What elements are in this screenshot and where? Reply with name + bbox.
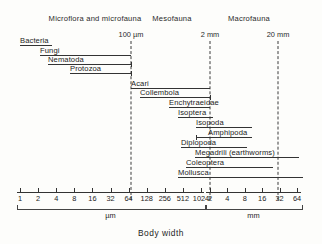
unit-label-um: µm (105, 211, 115, 220)
unit-brace-mm (206, 205, 303, 210)
axis-tick (201, 188, 202, 192)
axis-tick (210, 188, 211, 192)
axis-tick-label: 8 (72, 194, 76, 203)
axis-tick-label: 2 (208, 194, 212, 203)
axis-title: Body width (138, 228, 184, 238)
axis-tick-label: 256 (159, 194, 171, 203)
axis-tick (227, 188, 228, 192)
axis-tick-label: 4 (54, 194, 58, 203)
axis-tick (245, 188, 246, 192)
axis-tick (20, 188, 21, 192)
axis-tick (56, 188, 57, 192)
x-axis: 12481632641282565121024248163264 µm mm (0, 0, 322, 244)
axis-tick (165, 188, 166, 192)
axis-tick-label: 1024 (193, 194, 209, 203)
axis-tick (111, 188, 112, 192)
axis-tick-label: 128 (141, 194, 153, 203)
axis-tick-label: 16 (258, 194, 266, 203)
axis-tick (297, 188, 298, 192)
unit-brace-um (17, 205, 206, 210)
axis-tick (183, 188, 184, 192)
axis-tick (280, 188, 281, 192)
axis-tick (74, 188, 75, 192)
axis-tick-label: 512 (177, 194, 189, 203)
axis-tick (38, 188, 39, 192)
axis-tick-label: 2 (36, 194, 40, 203)
soil-fauna-body-width-chart: Microflora and microfauna Mesofauna Macr… (0, 0, 322, 244)
axis-tick-label: 8 (243, 194, 247, 203)
axis-tick (262, 188, 263, 192)
axis-tick-label: 32 (106, 194, 114, 203)
axis-tick-label: 64 (124, 194, 132, 203)
axis-tick-label: 64 (293, 194, 301, 203)
axis-tick (92, 188, 93, 192)
axis-tick-label: 32 (275, 194, 283, 203)
axis-tick-label: 1 (18, 194, 22, 203)
axis-tick (147, 188, 148, 192)
axis-tick (129, 188, 130, 192)
axis-tick-label: 16 (88, 194, 96, 203)
axis-line-mm (206, 192, 301, 193)
unit-label-mm: mm (247, 211, 259, 220)
axis-line-um (17, 192, 204, 193)
axis-tick-label: 4 (225, 194, 229, 203)
